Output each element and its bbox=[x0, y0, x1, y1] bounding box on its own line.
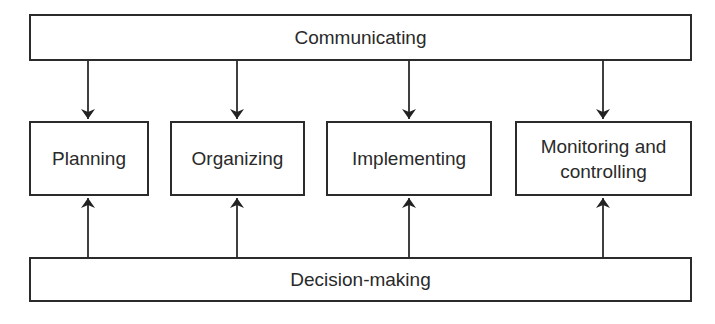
implementing-box: Implementing bbox=[326, 121, 492, 196]
communicating-label: Communicating bbox=[295, 25, 427, 50]
organizing-box: Organizing bbox=[170, 121, 305, 196]
planning-label: Planning bbox=[52, 146, 126, 171]
decision-making-label: Decision-making bbox=[290, 267, 430, 292]
communicating-box: Communicating bbox=[29, 14, 692, 61]
decision-making-box: Decision-making bbox=[29, 257, 692, 302]
implementing-label: Implementing bbox=[352, 146, 466, 171]
monitoring-controlling-box: Monitoring and controlling bbox=[515, 121, 692, 196]
monitoring-controlling-label: Monitoring and controlling bbox=[541, 134, 667, 184]
organizing-label: Organizing bbox=[192, 146, 284, 171]
planning-box: Planning bbox=[29, 121, 149, 196]
